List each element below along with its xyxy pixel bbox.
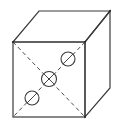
- vertex-front-top-right: [84, 41, 86, 43]
- lower-left-hole: [25, 91, 39, 105]
- vertex-front-bottom-right: [84, 116, 86, 118]
- cube-top-face: [13, 11, 110, 42]
- cube-diagram: [0, 0, 121, 128]
- upper-right-hole: [61, 52, 75, 66]
- cube-right-face: [85, 11, 110, 117]
- vertex-front-top-left: [12, 41, 14, 43]
- center-hole: [42, 72, 57, 87]
- vertex-back-top-right: [109, 10, 111, 12]
- center-point: [48, 78, 50, 80]
